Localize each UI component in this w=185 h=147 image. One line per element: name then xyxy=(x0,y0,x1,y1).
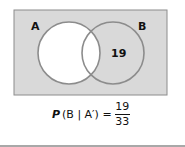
numerator: 19 xyxy=(115,101,129,113)
formula-p: P xyxy=(52,108,60,121)
label-a: A xyxy=(31,20,40,33)
formula-args: (B | A′) = xyxy=(62,108,112,121)
region-b-only-value: 19 xyxy=(111,47,126,60)
fraction: 19 33 xyxy=(115,101,130,128)
label-b: B xyxy=(138,20,146,33)
denominator: 33 xyxy=(115,116,129,128)
divider-line xyxy=(0,145,185,147)
probability-formula: P (B | A′) = 19 33 xyxy=(52,101,130,128)
